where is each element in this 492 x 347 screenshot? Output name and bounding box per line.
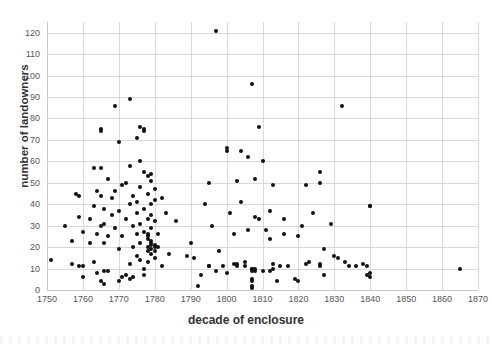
x-tick-label: 1760 bbox=[63, 295, 103, 304]
x-axis-title: decade of enclosure bbox=[0, 313, 492, 327]
x-tick-label: 1860 bbox=[422, 295, 462, 304]
y-tick-label: 10 bbox=[2, 265, 40, 274]
x-tick-label: 1820 bbox=[278, 295, 318, 304]
x-tick-label: 1800 bbox=[207, 295, 247, 304]
x-tick-label: 1870 bbox=[458, 295, 492, 304]
y-axis-title: number of landowners bbox=[18, 16, 30, 236]
x-tick-label: 1750 bbox=[27, 295, 67, 304]
page-text-smudge bbox=[0, 336, 492, 344]
scatter-chart-figure: 0102030405060708090100110120 17501760177… bbox=[0, 0, 492, 347]
x-tick-label: 1850 bbox=[386, 295, 426, 304]
y-tick-label: 0 bbox=[2, 286, 40, 295]
x-tick-label: 1790 bbox=[171, 295, 211, 304]
y-tick-label: 20 bbox=[2, 243, 40, 252]
x-tick-label: 1830 bbox=[314, 295, 354, 304]
x-tick-label: 1770 bbox=[99, 295, 139, 304]
x-tick-label: 1780 bbox=[135, 295, 175, 304]
x-tick-label: 1810 bbox=[243, 295, 283, 304]
x-tick-label: 1840 bbox=[350, 295, 390, 304]
